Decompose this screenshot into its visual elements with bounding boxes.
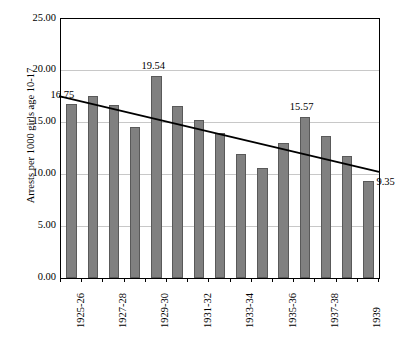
bar xyxy=(88,96,99,278)
y-axis-ticks: 25.00 20.00 15.00 10.00 5.00 0.00 xyxy=(14,0,56,340)
bar xyxy=(151,76,162,278)
x-tick-mark xyxy=(336,278,337,282)
x-tick-mark xyxy=(102,278,103,282)
data-label: 16.75 xyxy=(51,89,75,100)
bar xyxy=(300,117,311,278)
x-tick-mark xyxy=(251,278,252,282)
bar xyxy=(342,156,353,278)
x-tick-mark xyxy=(378,278,379,282)
x-tick-mark xyxy=(124,278,125,282)
bar xyxy=(363,181,374,278)
bar xyxy=(257,168,268,278)
x-tick-label: 1935-36 xyxy=(287,293,298,328)
x-tick-label: 1927-28 xyxy=(117,293,128,328)
y-tick-label-10: 10.00 xyxy=(16,168,56,178)
x-tick-mark xyxy=(357,278,358,282)
x-tick-label: 1931-32 xyxy=(202,293,213,328)
y-tick-label-25: 25.00 xyxy=(16,13,56,23)
x-tick-mark xyxy=(272,278,273,282)
x-tick-label: 1933-34 xyxy=(244,293,255,328)
x-tick-label: 1939 xyxy=(371,307,382,328)
data-label: 19.54 xyxy=(141,60,165,71)
x-tick-label: 1925-26 xyxy=(75,293,86,328)
bar xyxy=(66,104,77,278)
x-tick-mark xyxy=(293,278,294,282)
y-tick-label-15: 15.00 xyxy=(16,116,56,126)
x-tick-mark xyxy=(230,278,231,282)
plot-area xyxy=(60,18,380,279)
bar xyxy=(278,143,289,278)
y-tick-label-0: 0.00 xyxy=(16,272,56,282)
bar xyxy=(236,154,247,278)
x-tick-mark xyxy=(81,278,82,282)
x-tick-mark xyxy=(208,278,209,282)
x-axis: 1925-261927-281929-301931-321933-341935-… xyxy=(60,278,380,340)
x-tick-mark xyxy=(166,278,167,282)
x-tick-mark xyxy=(60,278,61,282)
x-tick-mark xyxy=(187,278,188,282)
bar xyxy=(109,105,120,278)
data-label: 15.57 xyxy=(290,101,314,112)
data-label: 9.35 xyxy=(376,176,394,187)
bar xyxy=(172,106,183,278)
bar xyxy=(194,120,205,279)
bar xyxy=(130,127,141,278)
y-tick-label-5: 5.00 xyxy=(16,220,56,230)
x-tick-label: 1937-38 xyxy=(329,293,340,328)
bar xyxy=(215,133,226,278)
x-tick-mark xyxy=(314,278,315,282)
x-tick-label: 1929-30 xyxy=(159,293,170,328)
x-tick-mark xyxy=(145,278,146,282)
y-tick-label-20: 20.00 xyxy=(16,64,56,74)
bar xyxy=(321,136,332,278)
bar-series xyxy=(61,19,379,278)
